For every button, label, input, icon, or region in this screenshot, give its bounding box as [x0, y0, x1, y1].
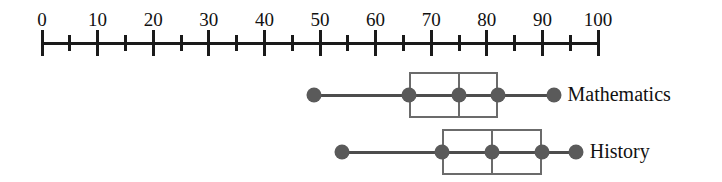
axis-tick-label: 60 [366, 10, 385, 29]
axis-tick-label: 100 [584, 10, 613, 29]
axis-tick-major [430, 30, 433, 56]
axis-tick-minor [291, 35, 294, 51]
axis-tick-label: 10 [88, 10, 107, 29]
median-marker [452, 88, 467, 103]
axis-tick-minor [402, 35, 405, 51]
min-marker [335, 145, 350, 160]
axis-tick-minor [513, 35, 516, 51]
median-marker [485, 145, 500, 160]
series-label: Mathematics [568, 84, 671, 104]
axis-tick-minor [569, 35, 572, 51]
axis-tick-major [263, 30, 266, 56]
axis-tick-major [152, 30, 155, 56]
axis-tick-label: 20 [144, 10, 163, 29]
q1-marker [435, 145, 450, 160]
axis-tick-major [207, 30, 210, 56]
q3-marker [490, 88, 505, 103]
axis-tick-major [597, 30, 600, 56]
axis-tick-minor [180, 35, 183, 51]
min-marker [307, 88, 322, 103]
axis-tick-major [374, 30, 377, 56]
axis-tick-label: 0 [37, 10, 47, 29]
q3-marker [535, 145, 550, 160]
axis-tick-major [319, 30, 322, 56]
axis-tick-minor [68, 35, 71, 51]
boxplot-figure: 0102030405060708090100 MathematicsHistor… [0, 0, 722, 182]
series-label: History [590, 141, 650, 161]
axis-tick-label: 70 [422, 10, 441, 29]
axis-tick-major [485, 30, 488, 56]
axis-tick-label: 90 [533, 10, 552, 29]
axis-tick-label: 30 [199, 10, 218, 29]
q1-marker [401, 88, 416, 103]
max-marker [546, 88, 561, 103]
axis-tick-label: 50 [311, 10, 330, 29]
axis-tick-minor [124, 35, 127, 51]
max-marker [568, 145, 583, 160]
axis-tick-major [41, 30, 44, 56]
axis-tick-minor [346, 35, 349, 51]
axis-tick-label: 80 [477, 10, 496, 29]
axis-tick-major [541, 30, 544, 56]
axis-tick-minor [235, 35, 238, 51]
axis-tick-minor [458, 35, 461, 51]
axis-tick-major [96, 30, 99, 56]
axis-tick-label: 40 [255, 10, 274, 29]
